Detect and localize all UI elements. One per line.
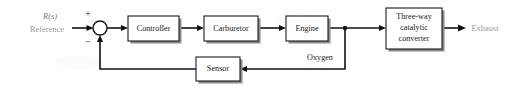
engine-label: Engine: [295, 24, 319, 33]
controller-label: Controller: [137, 24, 171, 33]
summing-junction-plus-sign: +: [85, 9, 90, 19]
arrowhead-into-carburetor: [197, 25, 204, 31]
block-catalytic-converter[interactable]: Three-way catalytic converter: [386, 8, 445, 52]
arrowhead-into-controller: [121, 25, 128, 31]
reference-signal-name: Reference: [30, 25, 64, 34]
converter-label-line-2: catalytic: [400, 23, 428, 32]
signal-label-reference: R(s) Reference: [30, 12, 64, 34]
arrowhead-up-into-sum: [97, 35, 103, 42]
block-sensor[interactable]: Sensor: [196, 57, 243, 84]
block-controller[interactable]: Controller: [128, 16, 182, 44]
block-carburetor[interactable]: Carburetor: [204, 16, 261, 44]
control-system-block-diagram: Controller Carburetor Engine Three-way c…: [0, 0, 514, 91]
arrowhead-to-exhaust: [458, 24, 466, 31]
carburetor-label: Carburetor: [213, 24, 249, 33]
block-engine[interactable]: Engine: [286, 16, 331, 44]
arrowhead-into-converter: [379, 25, 386, 31]
summing-junction-circle: [93, 21, 107, 35]
reference-signal-symbol: R(s): [42, 12, 57, 21]
converter-label-line-1: Three-way: [396, 12, 432, 21]
converter-label-line-3: converter: [399, 34, 430, 43]
summing-junction-minus-sign: −: [85, 37, 90, 47]
block-diagram-container: Controller Carburetor Engine Three-way c…: [0, 0, 514, 91]
oxygen-feedback-label: Oxygen: [307, 53, 333, 62]
sensor-label: Sensor: [207, 64, 230, 73]
exhaust-output-label: Exhaust: [472, 24, 500, 33]
